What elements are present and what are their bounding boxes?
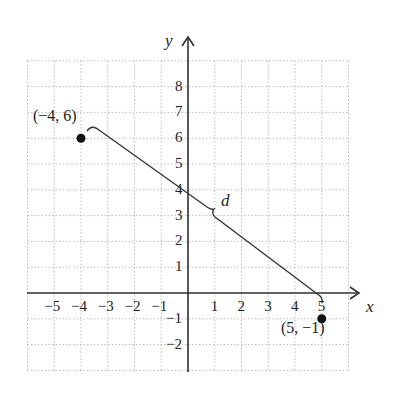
y-tick-label: 4 — [175, 182, 183, 197]
y-tick-label: 6 — [175, 130, 183, 145]
graph-svg — [0, 0, 393, 396]
y-tick-label: 3 — [175, 208, 183, 223]
x-tick-label: −1 — [151, 299, 167, 314]
y-tick-label: 7 — [175, 104, 183, 119]
point-b-label: (5, −1) — [281, 320, 325, 336]
x-tick-label: 3 — [264, 299, 272, 314]
y-tick-label: −1 — [166, 311, 182, 326]
distance-label: d — [221, 192, 230, 209]
y-tick-label: 1 — [175, 259, 183, 274]
x-tick-label: −2 — [125, 299, 141, 314]
point-a-label: (−4, 6) — [33, 108, 77, 124]
y-tick-label: 8 — [175, 79, 183, 94]
x-tick-label: −5 — [44, 299, 60, 314]
x-tick-label: −4 — [71, 299, 87, 314]
point-a-marker — [77, 134, 86, 143]
x-tick-label: 1 — [211, 299, 219, 314]
x-tick-label: 2 — [238, 299, 246, 314]
y-tick-label: −2 — [166, 337, 182, 352]
x-axis-label: x — [366, 298, 374, 315]
x-tick-label: −3 — [98, 299, 114, 314]
x-tick-label: 4 — [291, 299, 299, 314]
y-tick-label: 5 — [175, 156, 183, 171]
y-axis-label: y — [165, 32, 173, 49]
coordinate-plane: −5−4−3−2−11234587654321−1−2 y x d (−4, 6… — [0, 0, 393, 396]
x-tick-label: 5 — [318, 299, 326, 314]
y-tick-label: 2 — [175, 233, 183, 248]
